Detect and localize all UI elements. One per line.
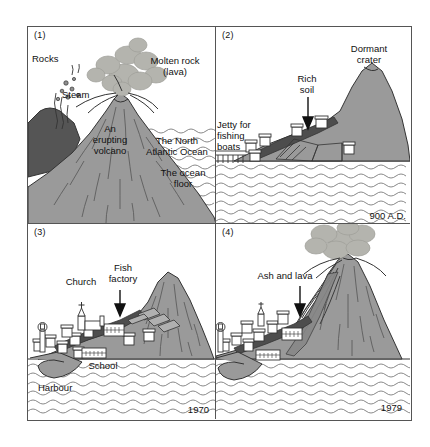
church: [78, 302, 101, 330]
label-dormant-crater: Dormant crater: [338, 43, 400, 65]
fish-factory-arrow: [115, 290, 125, 316]
label-erupting-volcano: An erupting volcano: [82, 123, 138, 156]
label-harbour: Harbour: [38, 382, 88, 393]
panel-2-year: 900 A.D.: [370, 210, 406, 221]
panel-3-number: (3): [34, 227, 46, 237]
church-4: [258, 302, 264, 326]
panel-4-number: (4): [222, 227, 234, 237]
label-ocean-floor: The ocean floor: [152, 167, 214, 189]
label-north-atlantic-ocean: The North Atlantic Ocean: [140, 135, 214, 157]
panel-3-year: 1970: [188, 404, 209, 415]
panel-4-year: 1979: [381, 402, 402, 413]
fish-factory-block: [100, 316, 124, 336]
school-4: [256, 350, 280, 360]
panel-1: (1) Rocks Steam Molten rock (lava) An er…: [28, 27, 216, 224]
fish-factory-4: [282, 328, 302, 340]
label-rich-soil: Rich soil: [284, 73, 330, 95]
label-church: Church: [56, 276, 106, 287]
diagram-frame: (1) Rocks Steam Molten rock (lava) An er…: [27, 26, 412, 421]
panel-4-artwork: [216, 224, 410, 419]
label-rocks: Rocks: [32, 53, 58, 64]
label-molten-rock: Molten rock (lava): [140, 55, 210, 77]
label-ash-and-lava: Ash and lava: [240, 270, 330, 281]
label-steam: Steam: [62, 89, 89, 100]
rich-soil-arrow: [303, 97, 313, 129]
panel-3: (3) Church Fish factory School Harbour 1…: [28, 224, 216, 419]
panel-2: (2) Dormant crater Rich soil Jetty for f…: [216, 27, 410, 224]
panel-1-number: (1): [34, 30, 46, 40]
label-jetty-fishing-boats: Jetty for fishing boats: [217, 119, 259, 152]
smoke-plume-4: [305, 224, 375, 259]
panel-4: (4) Ash and lava 1979: [216, 224, 410, 419]
school: [82, 348, 106, 358]
label-school: School: [82, 360, 124, 371]
label-fish-factory: Fish factory: [100, 262, 146, 284]
diagram-stage: (1) Rocks Steam Molten rock (lava) An er…: [0, 0, 430, 447]
panel-2-number: (2): [222, 30, 234, 40]
